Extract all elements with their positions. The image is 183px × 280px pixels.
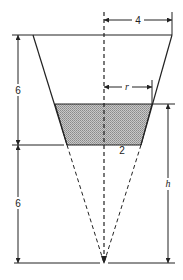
diagram: 4 r 2 6 6 h [0,0,183,280]
right-side [141,35,172,145]
bottom-radius-label: 2 [119,145,125,156]
apex-arrow-icon [101,256,107,264]
upper-height-label: 6 [15,85,21,96]
liquid-radius-label: r [125,81,129,92]
liquid-height-label: h [166,178,171,189]
left-extension [67,145,104,263]
right-extension [104,145,141,263]
left-side [33,35,67,145]
lower-height-label: 6 [15,198,21,209]
top-radius-label: 4 [135,15,141,26]
cone-diagram: 4 r 2 6 6 h [0,0,183,280]
